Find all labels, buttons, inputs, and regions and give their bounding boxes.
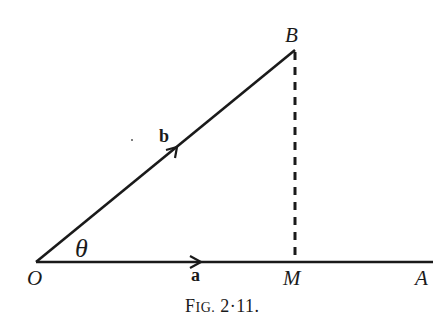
vector-label-a: a bbox=[191, 266, 200, 284]
caption-number: 2·11. bbox=[220, 296, 259, 316]
caption-smallcaps: IG. bbox=[196, 300, 216, 315]
point-label-m: M bbox=[283, 268, 301, 289]
stray-dot bbox=[131, 139, 133, 141]
point-label-a: A bbox=[415, 268, 428, 289]
point-label-o: O bbox=[27, 268, 42, 289]
vector-b-line bbox=[36, 50, 295, 262]
vector-label-b: b bbox=[159, 127, 169, 145]
figure-drawing bbox=[0, 0, 443, 333]
point-label-b: B bbox=[285, 25, 298, 46]
vector-projection-figure: B b θ O a M A FIG. 2·11. bbox=[0, 0, 443, 333]
angle-label-theta: θ bbox=[75, 236, 88, 262]
figure-caption: FIG. 2·11. bbox=[185, 297, 260, 315]
caption-prefix: F bbox=[185, 296, 196, 316]
